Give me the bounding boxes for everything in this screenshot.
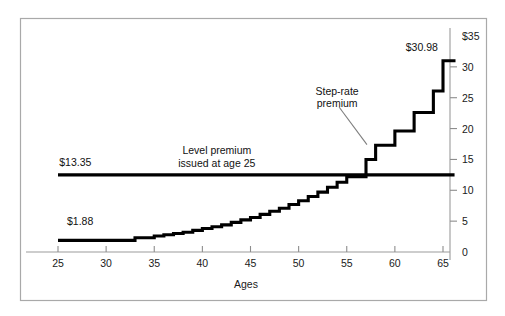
x-tick-label: 65 (437, 257, 449, 269)
level-premium-label-line-1: Level premium (182, 144, 251, 156)
y-tick-label: 5 (462, 215, 468, 227)
step-rate-label-line-1: Step-rate (316, 85, 359, 97)
x-tick-label: 40 (197, 257, 209, 269)
step-rate-label-line-2: premium (317, 97, 358, 109)
x-tick-label: 45 (245, 257, 257, 269)
x-tick-label: 60 (389, 257, 401, 269)
y-tick-label: $35 (462, 30, 480, 42)
end-value: $30.98 (406, 41, 438, 53)
y-tick-label: 20 (462, 123, 474, 135)
x-tick-label: 55 (341, 257, 353, 269)
step-rate-label: Step-ratepremium (316, 85, 359, 110)
x-tick-label: 35 (148, 257, 160, 269)
y-tick-label: 15 (462, 153, 474, 165)
x-tick-label: 30 (100, 257, 112, 269)
y-tick-label: 10 (462, 184, 474, 196)
y-tick-label: 0 (462, 246, 468, 258)
x-axis-title: Ages (234, 278, 258, 290)
level-premium-value: $13.35 (59, 156, 91, 168)
level-premium-label: Level premiumissued at age 25 (178, 144, 255, 169)
x-tick-label: 50 (293, 257, 305, 269)
x-tick-label: 25 (52, 257, 64, 269)
premium-comparison-chart: 253035404550556065 051015202530$35 Level… (0, 0, 505, 316)
y-tick-label: 30 (462, 61, 474, 73)
y-tick-label: 25 (462, 92, 474, 104)
start-value: $1.88 (67, 215, 93, 227)
level-premium-label-line-2: issued at age 25 (178, 157, 255, 169)
